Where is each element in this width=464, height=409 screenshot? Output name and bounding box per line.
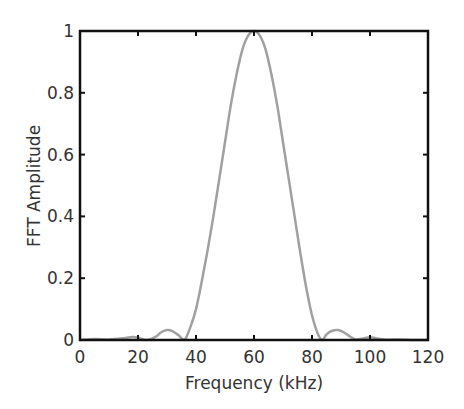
- x-axis-label: Frequency (kHz): [185, 373, 323, 393]
- y-tick-label: 0: [63, 330, 74, 350]
- x-tick-label: 80: [301, 347, 323, 367]
- x-tick-label: 20: [127, 347, 149, 367]
- y-axis-label: FFT Amplitude: [24, 125, 44, 247]
- fft-amplitude-line: [80, 31, 428, 340]
- y-tick-label: 0.8: [47, 83, 74, 103]
- y-tick-label: 1: [63, 21, 74, 41]
- fft-chart: 020406080100120 00.20.40.60.81 Frequency…: [0, 0, 464, 409]
- x-tick-label: 120: [412, 347, 444, 367]
- x-tick-label: 0: [75, 347, 86, 367]
- x-tick-label: 40: [185, 347, 207, 367]
- y-tick-label: 0.2: [47, 268, 74, 288]
- fft-curve: [80, 31, 428, 340]
- x-axis-ticks: 020406080100120: [75, 31, 445, 367]
- y-tick-label: 0.4: [47, 206, 74, 226]
- x-tick-label: 100: [354, 347, 386, 367]
- y-tick-label: 0.6: [47, 145, 74, 165]
- x-tick-label: 60: [243, 347, 265, 367]
- axes-frame: [80, 31, 428, 340]
